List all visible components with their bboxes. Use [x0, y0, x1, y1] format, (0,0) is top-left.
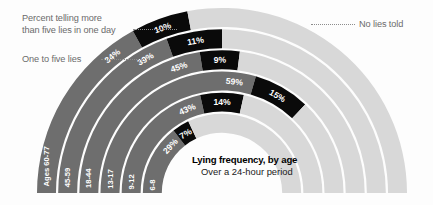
- pct-one-to-five-13-17: 59%: [225, 76, 244, 88]
- pct-more-than-five-9-12: 14%: [213, 97, 231, 107]
- age-label-18-44: 18-44: [84, 168, 93, 188]
- caption-title: Lying frequency, by age: [192, 154, 297, 166]
- leader-line-no-lies: [311, 24, 355, 25]
- age-label-6-8: 6-8: [148, 179, 157, 190]
- callout-more-line-1: Percent telling more: [22, 13, 116, 25]
- age-label-9-12: 9-12: [127, 174, 136, 189]
- caption-subtitle: Over a 24-hour period: [192, 166, 297, 178]
- callout-one-to-five-lies: One to five lies: [22, 54, 81, 66]
- age-label-13-17: 13-17: [106, 169, 115, 188]
- leader-line-more-than-five: [133, 29, 177, 30]
- chart-container: 34%10%39%11%45%9%59%15%43%14%29%7% Ages …: [0, 0, 433, 205]
- age-label-ages-60-77: Ages 60-77: [42, 146, 51, 186]
- chart-caption: Lying frequency, by age Over a 24-hour p…: [192, 154, 297, 178]
- callout-more-line-2: than five lies in one day: [22, 25, 116, 37]
- callout-no-lies-told: No lies told: [359, 19, 403, 31]
- pct-more-than-five-18-44: 9%: [214, 55, 227, 65]
- age-label-45-59: 45-59: [63, 168, 72, 187]
- leader-line-one-to-five: [101, 59, 145, 60]
- callout-more-than-five-lies: Percent telling more than five lies in o…: [22, 13, 116, 36]
